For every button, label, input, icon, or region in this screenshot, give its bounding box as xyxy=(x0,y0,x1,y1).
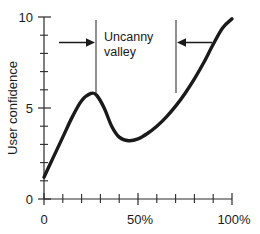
x-axis-label-0: 0 xyxy=(40,212,47,227)
x-axis-label-50: 50% xyxy=(127,212,153,227)
y-axis-label-10: 10 xyxy=(19,10,33,25)
x-axis-label-100: 100% xyxy=(217,212,251,227)
uncanny-valley-label-line2: valley xyxy=(104,45,137,59)
chart-canvas: 10 5 0 User confidence 0 50% 100% xyxy=(0,0,260,234)
y-axis-label-0: 0 xyxy=(26,192,33,207)
y-axis-title: User confidence xyxy=(5,61,20,155)
x-axis: 0 50% 100% xyxy=(40,193,251,227)
uncanny-valley-label-line1: Uncanny xyxy=(104,30,154,44)
arrow-left-pointing-icon xyxy=(177,38,212,47)
arrow-right-pointing-icon xyxy=(59,38,95,47)
uncanny-valley-chart: 10 5 0 User confidence 0 50% 100% xyxy=(0,0,260,234)
y-axis-label-5: 5 xyxy=(26,101,33,116)
y-axis: 10 5 0 xyxy=(19,10,51,207)
